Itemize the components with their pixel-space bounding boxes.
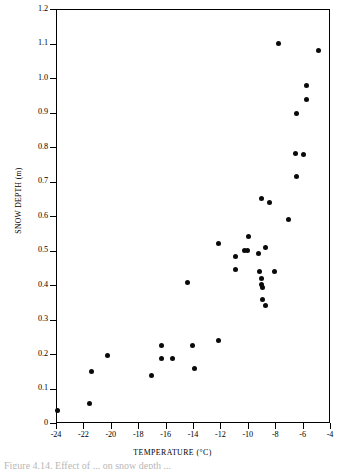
scatter-points-layer — [57, 10, 329, 422]
data-point — [245, 248, 250, 253]
data-point — [159, 356, 164, 361]
x-axis-tick — [303, 423, 304, 429]
data-point — [149, 373, 154, 378]
y-axis-tick — [50, 78, 56, 79]
x-axis-tick — [83, 423, 84, 429]
data-point — [246, 234, 251, 239]
data-point — [260, 285, 265, 290]
y-axis-tick — [50, 9, 56, 10]
y-axis-tick-label: 0.3 — [14, 315, 48, 323]
y-axis-tick — [50, 147, 56, 148]
data-point — [159, 343, 164, 348]
data-point — [55, 408, 60, 413]
x-axis-tick — [275, 423, 276, 429]
data-point — [257, 269, 262, 274]
figure-caption: Figure 4.14. Effect of ... on snow depth… — [4, 460, 345, 469]
data-point — [260, 297, 265, 302]
y-axis-tick — [50, 285, 56, 286]
data-point — [316, 48, 321, 53]
y-axis-tick — [50, 320, 56, 321]
y-axis-tick-label: 0.4 — [14, 281, 48, 289]
x-axis-tick — [220, 423, 221, 429]
y-axis-tick-label: 0 — [14, 419, 48, 427]
data-point — [259, 196, 264, 201]
data-point — [242, 248, 247, 253]
x-axis-tick — [330, 423, 331, 429]
y-axis-tick-label: 0.9 — [14, 108, 48, 116]
data-point — [304, 97, 309, 102]
data-point — [272, 269, 277, 274]
x-axis-tick — [111, 423, 112, 429]
data-point — [233, 254, 238, 259]
data-point — [216, 241, 221, 246]
x-axis-tick — [138, 423, 139, 429]
data-point — [259, 282, 264, 287]
data-point — [190, 343, 195, 348]
data-point — [276, 41, 281, 46]
data-point — [293, 151, 298, 156]
data-point — [185, 280, 190, 285]
data-point — [301, 152, 306, 157]
y-axis-tick-label: 1.0 — [14, 74, 48, 82]
y-axis-tick — [50, 44, 56, 45]
data-point — [105, 353, 110, 358]
data-point — [87, 401, 92, 406]
data-point — [259, 276, 264, 281]
x-axis-tick — [56, 423, 57, 429]
y-axis-tick-label: 1.1 — [14, 39, 48, 47]
data-point — [304, 83, 309, 88]
data-point — [286, 217, 291, 222]
y-axis-tick — [50, 216, 56, 217]
data-point — [263, 303, 268, 308]
data-point — [192, 366, 197, 371]
y-axis-tick — [50, 182, 56, 183]
data-point — [216, 338, 221, 343]
figure-container: 00.10.20.30.40.50.60.70.80.91.01.11.2 -2… — [0, 0, 345, 469]
y-axis-title: SNOW DEPTH (m) — [14, 131, 23, 271]
y-axis-tick-label: 1.2 — [14, 5, 48, 13]
plot-area — [56, 9, 330, 423]
y-axis-tick — [50, 389, 56, 390]
y-axis-tick — [50, 354, 56, 355]
data-point — [294, 174, 299, 179]
data-point — [170, 356, 175, 361]
x-axis-title: TEMPERATURE (°C) — [0, 448, 345, 457]
y-axis-tick-label: 0.1 — [14, 384, 48, 392]
data-point — [267, 200, 272, 205]
data-point — [294, 111, 299, 116]
y-axis-tick — [50, 113, 56, 114]
x-axis-tick — [248, 423, 249, 429]
y-axis-tick-label: 0.2 — [14, 350, 48, 358]
x-axis-tick-label: -4 — [310, 431, 345, 439]
data-point — [256, 251, 261, 256]
x-axis-tick — [166, 423, 167, 429]
y-axis-tick — [50, 251, 56, 252]
data-point — [89, 369, 94, 374]
data-point — [263, 245, 268, 250]
data-point — [233, 267, 238, 272]
x-axis-tick — [193, 423, 194, 429]
